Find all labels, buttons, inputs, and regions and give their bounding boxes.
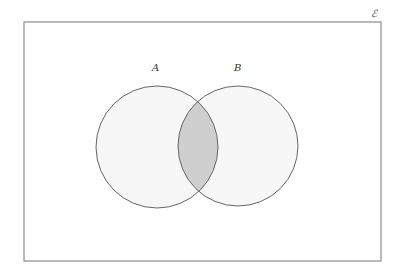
universal-set-label: ℰ bbox=[371, 8, 378, 19]
venn-diagram: ℰ A B bbox=[0, 0, 401, 275]
set-a-label: A bbox=[151, 62, 159, 73]
set-b-label: B bbox=[233, 62, 241, 73]
